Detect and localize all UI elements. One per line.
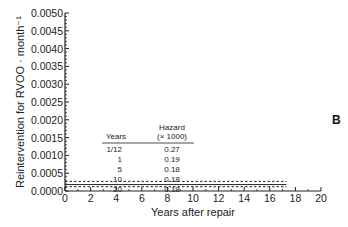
x-tick-label: 14 xyxy=(238,192,250,204)
table-cell-hazard: 0.18 xyxy=(164,185,180,194)
y-tick-label: 0.0015 xyxy=(31,132,63,144)
y-tick-label: 0.0050 xyxy=(31,7,63,19)
x-tick-label: 6 xyxy=(139,192,145,204)
hazard-chart: 0.00000.00050.00100.00150.00200.00250.00… xyxy=(0,0,348,227)
y-tick-label: 0.0005 xyxy=(31,167,63,179)
y-tick-label: 0.0040 xyxy=(31,43,63,55)
table-cell-years: 10 xyxy=(113,175,122,184)
y-tick-label: 0.0035 xyxy=(31,60,63,72)
x-tick-label: 0 xyxy=(62,192,68,204)
table-cell-years: 5 xyxy=(118,165,123,174)
inset-table: Years Hazard (× 1000) 1/120.2710.1950.18… xyxy=(102,123,194,194)
y-tick-label: 0.0045 xyxy=(31,25,63,37)
table-cell-years: 1/12 xyxy=(106,145,122,154)
table-cell-years: 20 xyxy=(113,185,122,194)
table-header-years: Years xyxy=(106,132,126,141)
y-tick-label: 0.0030 xyxy=(31,78,63,90)
y-tick-label: 0.0025 xyxy=(31,96,63,108)
table-cell-hazard: 0.18 xyxy=(164,175,180,184)
table-cell-hazard: 0.27 xyxy=(164,145,180,154)
x-tick-label: 18 xyxy=(290,192,302,204)
y-axis-title: Reintervention for RVOO · month⁻¹ xyxy=(14,16,26,188)
table-cell-hazard: 0.18 xyxy=(164,165,180,174)
x-tick-label: 2 xyxy=(88,192,94,204)
x-axis-title: Years after repair xyxy=(151,206,235,218)
y-tick-label: 0.0010 xyxy=(31,149,63,161)
y-axis: 0.00000.00050.00100.00150.00200.00250.00… xyxy=(31,7,69,197)
panel-label: B xyxy=(332,113,341,127)
x-tick-label: 20 xyxy=(315,192,327,204)
x-tick-label: 12 xyxy=(213,192,225,204)
x-tick-label: 10 xyxy=(187,192,199,204)
x-axis: 02468101214161820 xyxy=(62,187,327,204)
table-cell-years: 1 xyxy=(118,155,123,164)
table-cell-hazard: 0.19 xyxy=(164,155,180,164)
table-header-hazard: Hazard xyxy=(159,123,185,132)
table-header-unit: (× 1000) xyxy=(157,132,187,141)
y-tick-label: 0.0020 xyxy=(31,114,63,126)
y-tick-label: 0.0000 xyxy=(31,185,63,197)
x-tick-label: 16 xyxy=(264,192,276,204)
